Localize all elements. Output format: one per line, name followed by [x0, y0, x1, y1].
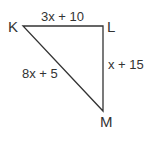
vertex-label-l: L	[107, 18, 115, 35]
triangle-diagram: K L M 3x + 10 x + 15 8x + 5	[0, 0, 153, 143]
side-label-kl: 3x + 10	[41, 9, 84, 24]
vertex-label-k: K	[8, 18, 18, 35]
vertex-label-m: M	[100, 113, 113, 130]
side-label-km: 8x + 5	[22, 66, 58, 81]
side-label-lm: x + 15	[108, 57, 144, 72]
